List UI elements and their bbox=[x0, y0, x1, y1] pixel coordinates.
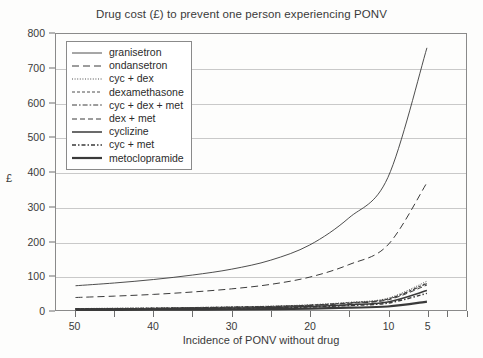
x-tick-mark bbox=[310, 311, 311, 317]
x-tick-mark bbox=[232, 311, 233, 317]
legend-item-label: dexamethasone bbox=[109, 86, 184, 99]
y-tick-label: 400 bbox=[27, 166, 45, 178]
y-tick-label: 200 bbox=[27, 236, 45, 248]
x-tick-mark bbox=[271, 311, 272, 317]
y-tick-label: 0 bbox=[39, 305, 45, 317]
legend-item: cyclizine bbox=[72, 125, 184, 138]
x-tick-mark bbox=[114, 311, 115, 317]
series-line-cyc-dex-met bbox=[76, 284, 427, 309]
legend-item-label: cyc + dex bbox=[109, 72, 154, 85]
x-tick-label: 5 bbox=[425, 320, 431, 332]
y-tick-label: 100 bbox=[27, 270, 45, 282]
legend-item-label: cyclizine bbox=[109, 125, 149, 138]
x-tick-label: 50 bbox=[69, 320, 81, 332]
chart-legend: granisetronondansetroncyc + dexdexametha… bbox=[66, 41, 192, 170]
x-tick-label: 40 bbox=[147, 320, 159, 332]
x-tick-label: 30 bbox=[226, 320, 238, 332]
legend-item: dex + met bbox=[72, 112, 184, 125]
x-tick-mark bbox=[192, 311, 193, 317]
legend-item: cyc + dex + met bbox=[72, 99, 184, 112]
x-tick-label: 20 bbox=[304, 320, 316, 332]
legend-line-swatch-icon bbox=[72, 73, 102, 85]
legend-item-label: dex + met bbox=[109, 112, 155, 125]
y-tick-label: 700 bbox=[27, 62, 45, 74]
legend-item: metoclopramide bbox=[72, 152, 184, 165]
legend-line-swatch-icon bbox=[72, 86, 102, 98]
chart-title: Drug cost (£) to prevent one person expe… bbox=[0, 8, 483, 20]
series-line-ondansetron bbox=[76, 183, 427, 298]
x-tick-mark bbox=[447, 311, 448, 317]
legend-line-swatch-icon bbox=[72, 126, 102, 138]
y-tick-label: 300 bbox=[27, 201, 45, 213]
legend-item-label: ondansetron bbox=[109, 59, 167, 72]
y-tick-label: 500 bbox=[27, 131, 45, 143]
x-tick-mark bbox=[75, 311, 76, 317]
legend-item: ondansetron bbox=[72, 59, 184, 72]
legend-line-swatch-icon bbox=[72, 113, 102, 125]
x-tick-mark bbox=[153, 311, 154, 317]
x-tick-label: 10 bbox=[383, 320, 395, 332]
chart-figure: Drug cost (£) to prevent one person expe… bbox=[0, 0, 483, 358]
legend-line-swatch-icon bbox=[72, 139, 102, 151]
legend-item-label: cyc + dex + met bbox=[109, 99, 183, 112]
legend-item: cyc + met bbox=[72, 138, 184, 151]
x-tick-mark bbox=[349, 311, 350, 317]
y-tick-label: 600 bbox=[27, 97, 45, 109]
legend-item: dexamethasone bbox=[72, 86, 184, 99]
legend-item: cyc + dex bbox=[72, 72, 184, 85]
x-tick-mark bbox=[428, 311, 429, 317]
legend-line-swatch-icon bbox=[72, 60, 102, 72]
legend-line-swatch-icon bbox=[72, 152, 102, 164]
x-axis-title: Incidence of PONV without drug bbox=[55, 334, 467, 346]
legend-item-label: metoclopramide bbox=[109, 152, 184, 165]
legend-item-label: granisetron bbox=[109, 46, 162, 59]
series-line-cyc-dex bbox=[76, 281, 427, 308]
x-tick-mark bbox=[467, 311, 468, 317]
x-tick-mark bbox=[389, 311, 390, 317]
y-tick-label: 800 bbox=[27, 27, 45, 39]
series-line-dex-met bbox=[76, 285, 427, 309]
legend-item: granisetron bbox=[72, 46, 184, 59]
legend-item-label: cyc + met bbox=[109, 138, 154, 151]
legend-line-swatch-icon bbox=[72, 47, 102, 59]
y-axis-title: £ bbox=[6, 172, 12, 184]
legend-line-swatch-icon bbox=[72, 99, 102, 111]
